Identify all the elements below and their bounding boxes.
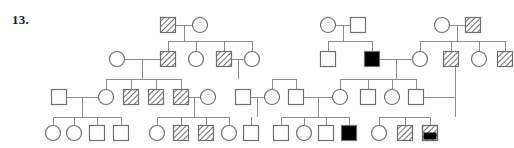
- male-symbol: [114, 126, 129, 141]
- male-symbol: [90, 126, 105, 141]
- individual-square-hatched: [444, 52, 459, 67]
- female-symbol: [67, 126, 82, 141]
- male-symbol: [351, 18, 366, 33]
- female-symbol: [333, 90, 348, 105]
- female-symbol: [99, 90, 114, 105]
- female-symbol: [472, 52, 487, 67]
- pedigree-diagram: [0, 0, 514, 148]
- female-symbol: [385, 90, 400, 105]
- female-symbol: [321, 18, 336, 33]
- individual-square-unaffected: [244, 126, 259, 141]
- individual-square-filled: [342, 126, 357, 141]
- individual-square-hatched: [174, 126, 189, 141]
- individual-square-hatched: [199, 126, 214, 141]
- individual-square-unaffected: [274, 126, 289, 141]
- individual-square-unaffected: [319, 126, 334, 141]
- male-symbol: [174, 126, 189, 141]
- individual-circle-unaffected: [67, 126, 82, 141]
- male-symbol: [342, 126, 357, 141]
- individual-circle-unaffected: [265, 90, 280, 105]
- individual-circle-unaffected: [413, 52, 428, 67]
- individual-square-unaffected: [351, 18, 366, 33]
- individual-circle-unaffected: [321, 18, 336, 33]
- individual-circle-unaffected: [333, 90, 348, 105]
- individual-square-unaffected: [236, 90, 251, 105]
- individual-square-unaffected: [90, 126, 105, 141]
- male-symbol: [365, 52, 380, 67]
- female-symbol: [110, 52, 125, 67]
- male-symbol: [409, 90, 424, 105]
- individual-circle-unaffected: [222, 126, 237, 141]
- individual-square-hatched: [217, 52, 232, 67]
- male-symbol: [161, 18, 176, 33]
- male-symbol: [236, 90, 251, 105]
- individual-circle-unaffected: [189, 52, 204, 67]
- male-symbol: [498, 52, 513, 67]
- individual-square-hatched: [161, 18, 176, 33]
- individual-circle-unaffected: [150, 126, 165, 141]
- individual-circle-unaffected: [193, 18, 208, 33]
- individual-circle-unaffected: [372, 126, 387, 141]
- male-symbol: [174, 90, 189, 105]
- female-symbol: [413, 52, 428, 67]
- male-symbol: [217, 52, 232, 67]
- female-symbol: [245, 52, 260, 67]
- individual-square-unaffected: [409, 90, 424, 105]
- female-symbol: [297, 126, 312, 141]
- male-symbol: [398, 126, 413, 141]
- male-symbol: [149, 90, 164, 105]
- female-symbol: [150, 126, 165, 141]
- individual-square-hatched-filled: [423, 126, 438, 141]
- male-symbol: [444, 52, 459, 67]
- male-symbol: [321, 52, 336, 67]
- individual-square-unaffected: [321, 52, 336, 67]
- individual-square-hatched: [149, 90, 164, 105]
- male-symbol: [161, 52, 176, 67]
- male-symbol: [124, 90, 139, 105]
- individual-square-hatched: [398, 126, 413, 141]
- female-symbol: [189, 52, 204, 67]
- female-symbol: [46, 126, 61, 141]
- connector-lines: [53, 25, 505, 126]
- individual-circle-unaffected: [99, 90, 114, 105]
- individual-square-filled: [365, 52, 380, 67]
- individual-square-hatched: [466, 18, 481, 33]
- pedigree-figure: 13.: [0, 0, 514, 148]
- individual-circle-unaffected: [472, 52, 487, 67]
- female-symbol: [222, 126, 237, 141]
- individual-square-unaffected: [114, 126, 129, 141]
- male-symbol-filled-portion: [424, 133, 437, 140]
- individual-circle-unaffected: [435, 18, 450, 33]
- individual-square-hatched: [161, 52, 176, 67]
- female-symbol: [193, 18, 208, 33]
- female-symbol: [201, 90, 216, 105]
- male-symbol: [52, 90, 67, 105]
- individual-square-hatched: [124, 90, 139, 105]
- individual-circle-unaffected: [245, 52, 260, 67]
- male-symbol: [319, 126, 334, 141]
- male-symbol: [466, 18, 481, 33]
- individual-square-unaffected: [289, 90, 304, 105]
- individual-square-hatched: [498, 52, 513, 67]
- individual-square-unaffected: [52, 90, 67, 105]
- female-symbol: [435, 18, 450, 33]
- male-symbol: [274, 126, 289, 141]
- individual-circle-unaffected: [201, 90, 216, 105]
- male-symbol: [199, 126, 214, 141]
- individual-square-unaffected: [361, 90, 376, 105]
- individual-circle-unaffected: [385, 90, 400, 105]
- individual-circle-unaffected: [297, 126, 312, 141]
- individual-square-hatched: [174, 90, 189, 105]
- individual-circle-unaffected: [46, 126, 61, 141]
- male-symbol: [289, 90, 304, 105]
- male-symbol: [361, 90, 376, 105]
- female-symbol: [265, 90, 280, 105]
- individual-circle-unaffected: [110, 52, 125, 67]
- female-symbol: [372, 126, 387, 141]
- male-symbol: [244, 126, 259, 141]
